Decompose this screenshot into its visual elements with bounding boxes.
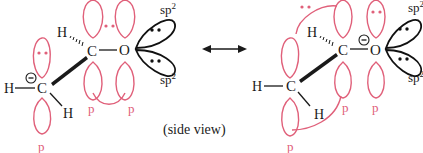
atom-oxygen: O	[370, 42, 381, 58]
negative-charge-icon	[359, 35, 369, 45]
resonance-arrow-icon	[202, 45, 247, 53]
atom-carbon-anion: C	[37, 80, 47, 96]
left-resonance-structure: p C H H C H O p	[4, 0, 176, 153]
lone-pair-dot	[398, 27, 401, 30]
p-orbital-top-lobe	[281, 38, 298, 78]
atom-carbon-center: C	[338, 42, 348, 58]
atom-carbon-left: C	[286, 78, 296, 94]
atom-oxygen: O	[119, 42, 130, 58]
p-orbital-bottom-lobe	[368, 62, 385, 98]
p-orbital-bottom-lobe	[335, 62, 352, 98]
p-label: p	[342, 100, 349, 115]
lone-pair-dot	[405, 57, 408, 60]
bond-c-h	[50, 93, 62, 106]
side-view-caption: (side view)	[163, 122, 226, 138]
atom-hydrogen-bottom: H	[63, 106, 73, 121]
lone-pair-dot	[37, 51, 40, 54]
sp2-orbital-upper	[136, 20, 175, 48]
sp2-orbital-upper	[386, 20, 421, 48]
p-label: p	[128, 101, 135, 116]
lone-pair-dot	[104, 24, 107, 27]
hashed-bond	[320, 36, 333, 46]
sp2-label-bottom: sp2	[408, 69, 423, 85]
atom-hydrogen-bottom: H	[314, 107, 324, 122]
lone-pair-dot	[371, 10, 374, 13]
p-orbital-top-lobe	[33, 38, 50, 78]
lone-pair-dot	[307, 5, 310, 8]
p-orbital-bottom-lobe	[34, 98, 51, 134]
p-label: p	[38, 139, 45, 153]
negative-charge-icon	[26, 73, 36, 83]
p-label: p	[287, 139, 294, 153]
wedge-bond	[51, 56, 88, 86]
atom-hydrogen-top: H	[57, 25, 67, 40]
p-label: p	[88, 101, 95, 116]
bond-c-h	[298, 92, 310, 106]
atom-hydrogen-left: H	[252, 79, 262, 94]
orbital-overlap-curve	[93, 93, 125, 104]
resonance-diagram: p C H H C H O p	[0, 0, 423, 153]
lone-pair-dot	[300, 5, 303, 8]
lone-pair-dot	[405, 27, 408, 30]
sp2-label-bottom: sp2	[160, 71, 176, 87]
lone-pair-dot	[44, 51, 47, 54]
p-orbital-top-lobe	[334, 0, 352, 38]
lone-pair-dot	[378, 10, 381, 13]
lone-pair-dot	[398, 57, 401, 60]
lone-pair-dot	[157, 28, 160, 31]
sp2-label-top: sp2	[160, 1, 176, 17]
lone-pair-dot	[150, 28, 153, 31]
lone-pair-dot	[150, 59, 153, 62]
p-orbital-top-lobe	[115, 0, 135, 38]
hashed-bond	[70, 36, 83, 46]
right-resonance-structure: p C H H C H p O	[252, 0, 423, 153]
wedge-bond	[299, 53, 338, 83]
atom-hydrogen-left: H	[4, 81, 14, 96]
lone-pair-dot	[157, 59, 160, 62]
p-orbital-top-lobe	[83, 0, 103, 38]
lone-pair-dot	[111, 24, 114, 27]
p-orbital-top-lobe	[367, 0, 385, 38]
sp2-label-top: sp2	[408, 0, 423, 15]
atom-hydrogen-top: H	[307, 25, 317, 40]
p-label: p	[372, 100, 379, 115]
atom-carbon-center: C	[87, 43, 97, 59]
